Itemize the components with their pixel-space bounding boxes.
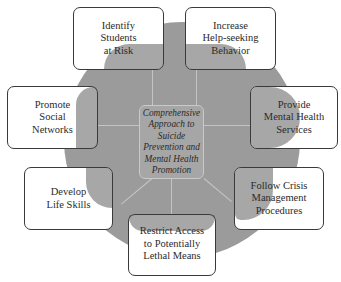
node-label: Increase Help-seeking Behavior xyxy=(203,20,259,58)
node-label: Follow Crisis Management Procedures xyxy=(251,180,308,218)
node-label: Restrict Access to Potentially Lethal Me… xyxy=(140,225,204,263)
center-box: Comprehensive Approach to Suicide Preven… xyxy=(139,105,204,179)
overlap-shade xyxy=(76,87,97,148)
spoke-social xyxy=(95,125,140,126)
node-label: Develop Life Skills xyxy=(46,186,90,211)
center-label: Comprehensive Approach to Suicide Preven… xyxy=(143,108,201,177)
node-label: Identify Students at Risk xyxy=(100,20,136,58)
node-label: Provide Mental Health Services xyxy=(264,99,324,137)
diagram-canvas: Comprehensive Approach to Suicide Preven… xyxy=(0,0,341,282)
node-label: Promote Social Networks xyxy=(32,99,73,137)
